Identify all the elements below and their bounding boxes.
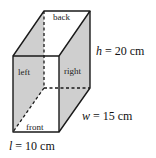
height-label: h = 20 cm [96,44,145,58]
rectangular-prism-diagram: back left right front h = 20 cm w = 15 c… [0,0,156,158]
right-face-label: right [64,66,81,76]
length-value: = 10 cm [12,139,55,153]
width-label: w = 15 cm [82,109,133,123]
height-value: = 20 cm [102,44,145,58]
back-face-label: back [53,12,70,22]
length-label: l = 10 cm [9,139,55,153]
front-face-label: front [26,122,44,132]
left-face-label: left [18,67,30,77]
width-value: = 15 cm [90,109,133,123]
width-variable: w [82,109,90,123]
